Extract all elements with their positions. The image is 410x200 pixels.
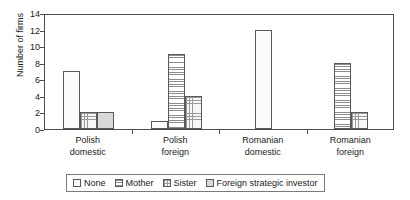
x-axis-group-label-line: foreign <box>127 146 223 158</box>
x-axis-group-label-line: Polish <box>127 134 223 146</box>
legend-swatch-icon <box>73 179 81 187</box>
x-axis-group-label-line: Romanian <box>215 134 311 146</box>
bar <box>185 96 202 129</box>
x-axis-group-label-line: domestic <box>215 146 311 158</box>
bar <box>351 112 368 129</box>
plot-area <box>44 14 394 130</box>
legend-label: Mother <box>126 178 154 188</box>
legend-item[interactable]: Mother <box>115 178 154 188</box>
bar <box>97 112 114 129</box>
bar <box>80 112 97 129</box>
x-axis-group-label-line: foreign <box>302 146 398 158</box>
y-axis-tick-label: 4 <box>0 92 40 101</box>
y-axis-tick-label: 0 <box>0 126 40 135</box>
legend-swatch-icon <box>115 179 123 187</box>
bar <box>168 54 185 129</box>
y-axis-tick-label: 14 <box>0 10 40 19</box>
legend-swatch-icon <box>206 179 214 187</box>
bar <box>151 121 168 129</box>
y-axis-tick-label: 10 <box>0 43 40 52</box>
legend-item[interactable]: Sister <box>163 178 197 188</box>
x-axis-group-label-line: domestic <box>40 146 136 158</box>
x-axis-group-label: Romanianforeign <box>302 134 398 158</box>
chart-figure: Number of firms 02468101214 Polishdomest… <box>0 0 410 200</box>
bar <box>255 30 272 129</box>
y-axis-tick-label: 8 <box>0 59 40 68</box>
y-axis-tick-mark <box>40 130 44 131</box>
bar <box>63 71 80 129</box>
x-axis-group-label: Romaniandomestic <box>215 134 311 158</box>
y-axis-tick-label: 6 <box>0 76 40 85</box>
x-axis-group-label-line: Polish <box>40 134 136 146</box>
legend-item[interactable]: Foreign strategic investor <box>206 178 318 188</box>
legend-label: Sister <box>174 178 197 188</box>
y-axis-tick-label: 2 <box>0 109 40 118</box>
x-axis-group-label: Polishforeign <box>127 134 223 158</box>
legend-swatch-icon <box>163 179 171 187</box>
chart-legend: NoneMotherSisterForeign strategic invest… <box>66 174 325 192</box>
legend-item[interactable]: None <box>73 178 106 188</box>
bar-series-container <box>45 15 393 129</box>
x-axis-group-label: Polishdomestic <box>40 134 136 158</box>
legend-label: None <box>84 178 106 188</box>
legend-label: Foreign strategic investor <box>217 178 318 188</box>
y-axis-tick-label: 12 <box>0 26 40 35</box>
x-axis-group-label-line: Romanian <box>302 134 398 146</box>
bar <box>334 63 351 129</box>
